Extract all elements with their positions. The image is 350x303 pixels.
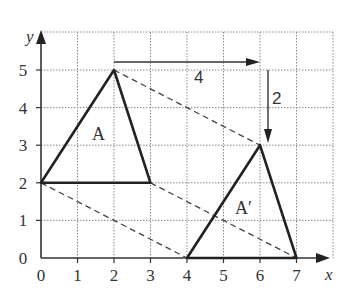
- x-tick-3: 3: [146, 266, 155, 285]
- correspondence-lines: [41, 70, 297, 258]
- x-tick-7: 7: [292, 266, 301, 285]
- y-axis-label: y: [24, 27, 34, 46]
- y-tick-5: 5: [19, 61, 28, 80]
- y-tick-4: 4: [19, 99, 28, 118]
- x-tick-0: 0: [37, 266, 46, 285]
- y-tick-3: 3: [19, 136, 28, 155]
- axis-ticks: [36, 70, 297, 263]
- x-axis-label: x: [324, 265, 333, 284]
- coordinate-diagram: 0 1 2 3 4 5 6 7 0 1 2 3 4 5 x y A A′ 4 2: [0, 0, 350, 303]
- x-tick-5: 5: [219, 266, 228, 285]
- x-tick-labels: 0 1 2 3 4 5 6 7: [37, 266, 302, 285]
- y-tick-1: 1: [19, 211, 28, 230]
- x-tick-1: 1: [73, 266, 82, 285]
- axes: [41, 42, 318, 258]
- horizontal-translation-label: 4: [194, 68, 203, 87]
- y-tick-2: 2: [19, 174, 28, 193]
- x-tick-4: 4: [183, 266, 192, 285]
- x-tick-6: 6: [256, 266, 265, 285]
- triangle-a-prime-label: A′: [235, 198, 252, 218]
- y-tick-labels: 0 1 2 3 4 5: [19, 61, 28, 268]
- down-arrowhead-icon: [264, 129, 272, 143]
- grid: [41, 32, 333, 258]
- x-tick-2: 2: [110, 266, 119, 285]
- y-tick-0: 0: [19, 249, 28, 268]
- right-arrowhead-icon: [246, 58, 260, 66]
- x-axis-arrow-icon: [316, 253, 330, 263]
- vertical-translation-label: 2: [272, 89, 281, 108]
- triangle-a-label: A: [92, 124, 105, 144]
